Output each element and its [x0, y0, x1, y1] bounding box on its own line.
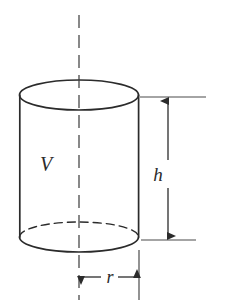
cylinder-diagram-canvas: h r V — [0, 0, 231, 307]
cylinder-figure: h r V — [0, 0, 231, 307]
radius-label: r — [106, 267, 114, 287]
height-label: h — [153, 164, 163, 185]
figure-background — [0, 0, 231, 307]
